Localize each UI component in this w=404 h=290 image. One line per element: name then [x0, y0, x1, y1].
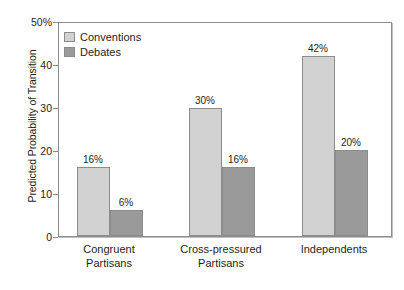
legend-label-conventions: Conventions	[80, 31, 141, 43]
y-tick-mark-0	[53, 237, 58, 238]
group-label-congruent: Congruent Partisans	[83, 243, 134, 270]
y-tick-label-40: 40	[8, 59, 52, 71]
plot-area: Conventions Debates 16% 6% 30% 16% 42% 2…	[58, 22, 392, 237]
bar-value-independents-debates: 20%	[341, 137, 361, 148]
bar-chart-figure: Predicted Probability of Transition 50% …	[0, 0, 404, 290]
y-tick-label-0: 0	[8, 231, 52, 243]
group-label-crosspressured-line1: Cross-pressured	[180, 243, 261, 257]
bar-independents-debates	[335, 150, 368, 236]
bar-congruent-conventions	[77, 167, 110, 236]
legend-swatch-debates-icon	[64, 47, 75, 57]
bar-crosspressured-debates	[222, 167, 255, 236]
group-label-independents: Independents	[301, 243, 368, 257]
bar-value-independents-conventions: 42%	[308, 43, 328, 54]
y-tick-label-10: 10	[8, 188, 52, 200]
bar-independents-conventions	[302, 56, 335, 236]
bar-crosspressured-conventions	[189, 108, 222, 236]
legend: Conventions Debates	[64, 30, 141, 60]
bar-value-congruent-conventions: 16%	[83, 154, 103, 165]
group-label-congruent-line1: Congruent	[83, 243, 134, 257]
y-tick-label-20: 20	[8, 145, 52, 157]
bar-value-congruent-debates: 6%	[119, 197, 133, 208]
bar-congruent-debates	[110, 210, 143, 236]
y-axis-title: Predicted Probability of Transition	[26, 16, 38, 236]
y-tick-label-30: 30	[8, 102, 52, 114]
legend-label-debates: Debates	[80, 46, 121, 58]
legend-item-conventions: Conventions	[64, 30, 141, 43]
y-tick-label-50: 50%	[8, 16, 52, 28]
legend-swatch-conventions-icon	[64, 32, 75, 42]
legend-item-debates: Debates	[64, 45, 141, 58]
group-label-congruent-line2: Partisans	[83, 257, 134, 271]
group-label-crosspressured-line2: Partisans	[180, 257, 261, 271]
bar-value-crosspressured-debates: 16%	[228, 154, 248, 165]
group-label-independents-line1: Independents	[301, 243, 368, 257]
group-label-crosspressured: Cross-pressured Partisans	[180, 243, 261, 270]
bar-value-crosspressured-conventions: 30%	[195, 95, 215, 106]
